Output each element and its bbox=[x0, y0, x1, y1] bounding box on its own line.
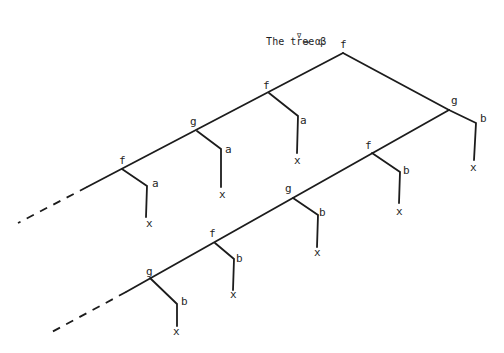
lower-spine-line bbox=[126, 110, 449, 292]
node-label: g bbox=[451, 94, 458, 107]
node-label: f bbox=[263, 79, 270, 92]
title-suffix: → α bbox=[303, 36, 321, 47]
lower-spine-continuation bbox=[50, 292, 126, 333]
tree-diagram: The tree β ∇ → α f f a x g a x f a x g b bbox=[0, 0, 504, 353]
leaf-label: a bbox=[300, 114, 307, 127]
leaf-edge bbox=[269, 93, 298, 153]
lower-node-4: g b x bbox=[146, 265, 188, 338]
node-label: g bbox=[285, 182, 292, 195]
lower-node-2: g b x bbox=[285, 182, 326, 259]
upper-spine-continuation bbox=[18, 187, 87, 223]
leaf-edge bbox=[293, 198, 318, 247]
leaf-edge bbox=[449, 110, 476, 160]
node-label: f bbox=[209, 227, 216, 240]
node-label: g bbox=[146, 265, 153, 278]
node-label: f bbox=[365, 139, 372, 152]
leaf-end-label: x bbox=[396, 205, 403, 218]
upper-node-1: g a x bbox=[190, 115, 232, 201]
leaf-edge bbox=[197, 131, 221, 187]
leaf-label: a bbox=[152, 177, 159, 190]
title-superscript: ∇ bbox=[296, 32, 302, 40]
leaf-end-label: x bbox=[314, 246, 321, 259]
node-label: f bbox=[119, 154, 126, 167]
root-node-label: f bbox=[340, 38, 347, 51]
leaf-label: b bbox=[480, 112, 487, 125]
node-label: g bbox=[190, 115, 197, 128]
diagram-title: The tree β ∇ → α bbox=[236, 29, 356, 47]
leaf-end-label: x bbox=[146, 217, 153, 230]
leaf-edge bbox=[372, 153, 400, 203]
leaf-end-label: x bbox=[219, 188, 226, 201]
leaf-end-label: x bbox=[470, 161, 477, 174]
leaf-label: b bbox=[319, 206, 326, 219]
lower-node-0: g b x bbox=[449, 94, 487, 174]
leaf-edge bbox=[215, 243, 234, 290]
leaf-label: b bbox=[236, 252, 243, 265]
leaf-edge bbox=[122, 169, 147, 217]
leaf-end-label: x bbox=[173, 325, 180, 338]
leaf-label: b bbox=[403, 164, 410, 177]
leaf-end-label: x bbox=[230, 288, 237, 301]
leaf-label: b bbox=[181, 295, 188, 308]
root-right-edge bbox=[343, 53, 449, 110]
lower-spine bbox=[50, 110, 449, 333]
leaf-edge bbox=[150, 278, 177, 326]
leaf-label: a bbox=[225, 143, 232, 156]
leaf-end-label: x bbox=[294, 154, 301, 167]
lower-node-3: f b x bbox=[209, 227, 243, 301]
lower-node-1: f b x bbox=[365, 139, 410, 218]
upper-node-2: f a x bbox=[119, 154, 159, 230]
